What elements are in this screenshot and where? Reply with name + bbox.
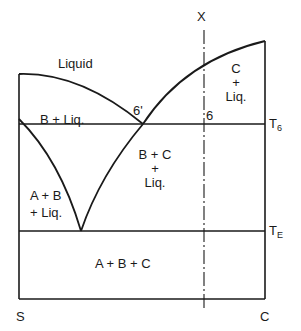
region-b-liq-label: B + Liq. [40,113,84,127]
region-ab-liq-line1: A + B [30,189,62,203]
point-6-label: 6 [206,109,213,123]
region-abc-label: A + B + C [95,257,151,271]
region-bc-liq-label: B + C + Liq. [130,148,180,190]
region-ab-liq-label: A + B + Liq. [30,189,62,220]
region-bc-liq-line3: Liq. [130,176,180,190]
region-c-liq-line3: Liq. [224,90,248,104]
te-label: TE [269,224,283,239]
composition-x-label: X [197,10,206,24]
region-bc-liq-line1: B + C [130,148,180,162]
region-bc-liq-line2: + [130,162,180,176]
region-ab-liq-line2: + Liq. [30,206,62,220]
region-c-liq-line2: + [224,76,248,90]
region-liquid-label: Liquid [58,57,93,71]
t6-label: T6 [269,117,282,132]
te-label-sub: E [277,230,283,240]
axis-right-label-c: C [260,310,269,324]
axis-left-label-s: S [16,310,25,324]
region-c-liq-label: C + Liq. [224,62,248,104]
te-label-main: T [269,223,277,238]
t6-label-sub: 6 [277,123,282,133]
t6-label-main: T [269,116,277,131]
point-6-prime-label: 6' [133,104,143,118]
region-c-liq-line1: C [224,62,248,76]
